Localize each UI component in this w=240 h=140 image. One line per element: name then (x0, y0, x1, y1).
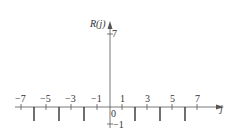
x-tick-label: −3 (65, 93, 76, 104)
origin-label: 0 (111, 108, 116, 119)
stem-plot: R(j) j 7 −1 0 −7 −5 −3 −1 1 3 5 7 (0, 0, 240, 140)
x-tick-label: 3 (145, 93, 150, 104)
x-tick-label: −7 (15, 93, 26, 104)
x-tick-label: −1 (91, 93, 102, 104)
y-axis-label: R(j) (89, 18, 106, 30)
x-tick-label: 1 (120, 93, 125, 104)
x-tick-label: 5 (170, 93, 175, 104)
stems (34, 107, 185, 121)
y-tick-label-neg1: −1 (113, 119, 124, 130)
y-tick-label-7: 7 (112, 28, 117, 39)
x-tick-label: −5 (40, 93, 51, 104)
x-tick-label: 7 (195, 93, 200, 104)
